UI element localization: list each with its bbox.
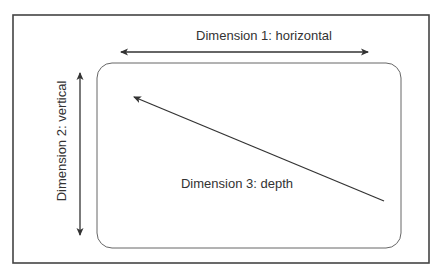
dimensions-diagram: Dimension 1: horizontal Dimension 2: ver… — [0, 0, 442, 278]
dimension2-label: Dimension 2: vertical — [54, 81, 69, 202]
screen-panel — [97, 63, 401, 248]
dimension1-label: Dimension 1: horizontal — [196, 28, 332, 43]
dimension3-label: Dimension 3: depth — [181, 176, 293, 191]
